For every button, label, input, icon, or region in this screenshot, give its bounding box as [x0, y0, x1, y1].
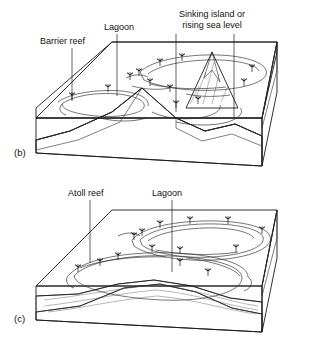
label-barrier-reef: Barrier reef: [40, 36, 86, 46]
label-lagoon-c: Lagoon: [152, 188, 182, 198]
panel-b-letter: (b): [14, 147, 26, 158]
coral-reef-stages-figure: Barrier reef Lagoon Sinking island or ri…: [0, 0, 309, 345]
label-atoll-reef: Atoll reef: [68, 188, 104, 198]
label-lagoon-b: Lagoon: [104, 22, 134, 32]
panel-c-letter: (c): [14, 313, 25, 324]
figure-canvas: Barrier reef Lagoon Sinking island or ri…: [0, 0, 309, 345]
label-sinking-island-line1: Sinking island or: [179, 9, 245, 19]
label-sinking-island-line2: rising sea level: [182, 20, 242, 30]
